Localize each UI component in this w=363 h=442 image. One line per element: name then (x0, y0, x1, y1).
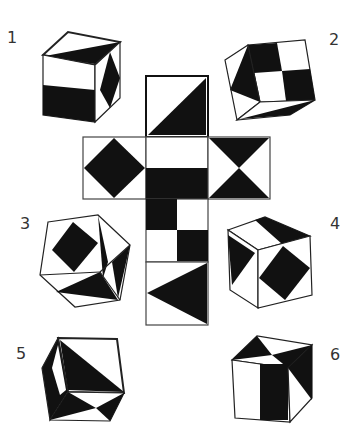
cube-option-3[interactable] (40, 215, 130, 307)
cube-option-1[interactable] (43, 32, 120, 122)
net-face-bottom (146, 262, 208, 325)
label-cube-6: 6 (330, 345, 340, 364)
cube-option-5[interactable] (42, 338, 124, 421)
cube-option-4[interactable] (228, 217, 312, 308)
label-cube-2: 2 (329, 30, 339, 49)
net-face-left (83, 137, 146, 199)
cube-option-6[interactable] (232, 336, 312, 422)
net-face-center (146, 137, 208, 199)
net-face-top (146, 76, 208, 137)
puzzle-canvas (0, 0, 363, 442)
label-cube-1: 1 (7, 28, 17, 47)
label-cube-4: 4 (330, 214, 340, 233)
label-cube-5: 5 (16, 344, 26, 363)
net-face-checker (146, 199, 208, 262)
net-face-right (208, 137, 270, 199)
cube-option-2[interactable] (225, 40, 315, 120)
label-cube-3: 3 (20, 214, 30, 233)
